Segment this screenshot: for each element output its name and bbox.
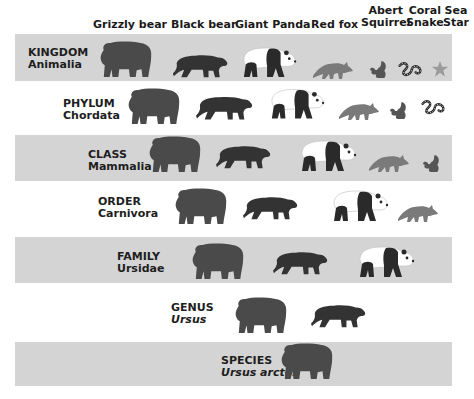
- red-fox-icon: [339, 99, 379, 121]
- rank-family-taxon: Ursidae: [117, 263, 164, 275]
- header-abert-squirrel-line2: Squirrel: [361, 16, 410, 29]
- abert-squirrel-icon: [422, 153, 440, 173]
- grizzly-bear-icon: [126, 85, 184, 128]
- giant-panda-icon: [240, 45, 298, 80]
- rank-order: ORDER Carnivora: [98, 196, 158, 220]
- sea-star-icon: [431, 60, 449, 78]
- giant-panda-icon: [298, 138, 358, 174]
- header-black-bear: Black bear: [171, 19, 236, 31]
- black-bear-icon: [273, 247, 329, 277]
- rank-family: FAMILY Ursidae: [117, 251, 164, 275]
- giant-panda-icon: [268, 86, 326, 122]
- black-bear-icon: [172, 50, 230, 80]
- red-fox-icon: [398, 201, 438, 223]
- coral-snake-icon: [397, 60, 423, 77]
- grizzly-bear-icon: [190, 240, 248, 283]
- grizzly-bear-icon: [173, 185, 231, 228]
- header-sea-star-line2: Star: [443, 16, 469, 29]
- giant-panda-icon: [356, 244, 416, 280]
- header-sea-star: Sea Star: [443, 5, 469, 29]
- grizzly-bear-icon: [233, 294, 291, 337]
- red-fox-icon: [369, 151, 409, 173]
- grizzly-bear-icon: [279, 340, 337, 383]
- red-fox-icon: [313, 58, 353, 80]
- rank-order-taxon: Carnivora: [98, 208, 158, 220]
- black-bear-icon: [311, 300, 367, 330]
- rank-class-taxon: Mammalia: [88, 161, 152, 173]
- grizzly-bear-icon: [98, 38, 156, 81]
- giant-panda-icon: [330, 188, 390, 224]
- header-grizzly-bear: Grizzly bear: [93, 19, 167, 31]
- abert-squirrel-icon: [369, 59, 387, 79]
- grizzly-bear-icon: [147, 133, 205, 176]
- black-bear-icon: [216, 141, 272, 171]
- header-red-fox: Red fox: [311, 19, 358, 31]
- rank-phylum-taxon: Chordata: [63, 110, 120, 122]
- black-bear-icon: [196, 91, 254, 123]
- header-abert-squirrel: Abert Squirrel: [361, 5, 410, 29]
- rank-genus-taxon: Ursus: [171, 314, 214, 326]
- coral-snake-icon: [420, 98, 446, 115]
- header-giant-panda: Giant Panda: [235, 19, 310, 31]
- rank-kingdom: KINGDOM Animalia: [28, 47, 88, 71]
- rank-kingdom-taxon: Animalia: [28, 59, 88, 71]
- rank-phylum: PHYLUM Chordata: [63, 98, 120, 122]
- rank-class: CLASS Mammalia: [88, 149, 152, 173]
- header-coral-snake-line2: Snake: [406, 16, 444, 29]
- abert-squirrel-icon: [389, 100, 407, 120]
- black-bear-icon: [243, 192, 299, 222]
- header-coral-snake: Coral Snake: [406, 5, 444, 29]
- rank-genus: GENUS Ursus: [171, 302, 214, 326]
